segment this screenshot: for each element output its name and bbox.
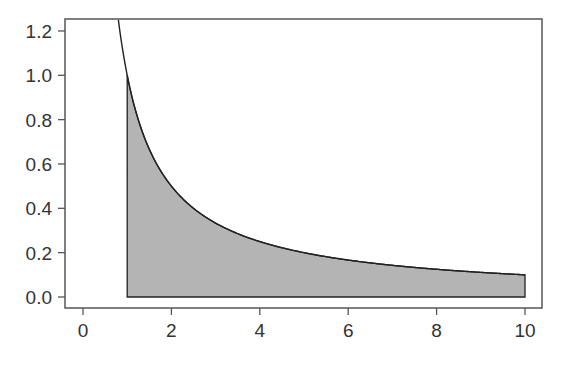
x-tick-label: 0 — [78, 320, 89, 341]
x-tick-label: 10 — [514, 320, 535, 341]
chart: 0.00.20.40.60.81.01.2 0246810 — [0, 0, 562, 365]
y-tick-label: 0.2 — [26, 243, 52, 264]
y-tick-label: 1.2 — [26, 21, 52, 42]
y-tick-label: 0.0 — [26, 287, 52, 308]
x-tick-label: 2 — [166, 320, 177, 341]
y-tick-label: 1.0 — [26, 65, 52, 86]
x-tick-label: 8 — [431, 320, 442, 341]
y-axis: 0.00.20.40.60.81.01.2 — [26, 21, 65, 308]
y-tick-label: 0.4 — [26, 198, 53, 219]
y-tick-label: 0.6 — [26, 154, 52, 175]
x-axis: 0246810 — [78, 308, 536, 341]
x-tick-label: 6 — [343, 320, 354, 341]
x-tick-label: 4 — [255, 320, 266, 341]
y-tick-label: 0.8 — [26, 110, 52, 131]
